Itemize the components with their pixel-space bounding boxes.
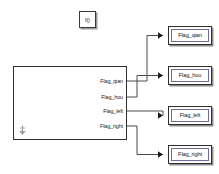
destination-block-flag-hou[interactable]: Flag_hou: [168, 66, 212, 85]
wire-flag-qian[interactable]: [127, 36, 163, 82]
wire-flag-hou[interactable]: [127, 76, 163, 98]
wire-flag-left[interactable]: [127, 111, 163, 116]
function-call-trigger-label: f(): [85, 17, 90, 23]
arrowhead-flag-qian: [158, 32, 163, 38]
output-port-label-flag-hou: Flag_hou: [101, 95, 123, 100]
subsystem-block[interactable]: Flag_qianFlag_houFlag_leftFlag_right: [13, 66, 127, 140]
destination-block-label: Flag_hou: [179, 73, 202, 79]
output-port-label-flag-left: Flag_left: [103, 109, 123, 114]
wire-flag-right[interactable]: [127, 126, 163, 155]
function-call-trigger[interactable]: f(): [79, 11, 96, 28]
arrowhead-flag-hou: [158, 72, 163, 78]
destination-block-label: Flag_right: [178, 152, 202, 158]
destination-block-flag-qian[interactable]: Flag_qian: [168, 26, 212, 45]
destination-block-flag-right[interactable]: Flag_right: [168, 145, 212, 164]
destination-block-flag-left[interactable]: Flag_left: [168, 106, 212, 125]
destination-block-label: Flag_qian: [178, 33, 202, 39]
simulink-diagram-canvas: f() Flag_qianFlag_houFlag_leftFlag_right…: [0, 0, 219, 174]
output-port-label-flag-qian: Flag_qian: [100, 79, 123, 84]
arrowhead-flag-right: [158, 151, 163, 157]
destination-block-label: Flag_left: [180, 113, 201, 119]
anchor-arrow-icon: [18, 125, 27, 135]
output-port-label-flag-right: Flag_right: [100, 124, 123, 129]
arrowhead-flag-left: [158, 112, 163, 118]
